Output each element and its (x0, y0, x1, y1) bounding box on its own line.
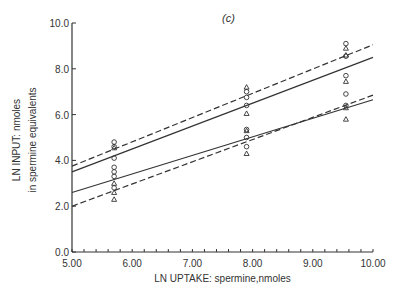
circle-data-point (112, 156, 117, 161)
circle-data-point (344, 92, 349, 97)
circle-data-point (112, 140, 117, 145)
triangle-data-point (112, 181, 117, 186)
triangle-data-point (244, 151, 249, 156)
x-tick-label: 9.00 (303, 258, 323, 269)
circle-data-point (112, 165, 117, 170)
triangle-data-point (343, 117, 348, 122)
triangle-data-point (343, 53, 348, 58)
triangle-data-point (343, 46, 348, 51)
y-axis-title-line2: in spermine equivalents (27, 87, 38, 192)
scatter-chart: 0.02.04.06.08.010.05.006.007.008.009.001… (0, 0, 403, 296)
y-tick-label: 4.0 (55, 155, 69, 166)
circle-data-point (244, 89, 249, 94)
circle-data-point (112, 170, 117, 175)
y-axis-title-line1: LN INPUT: nmoles (11, 99, 22, 181)
x-tick-label: 8.00 (243, 258, 263, 269)
x-tick-label: 6.00 (122, 258, 142, 269)
y-tick-label: 10.0 (50, 18, 70, 29)
triangle-data-point (112, 197, 117, 202)
upper-regression-solid-line (72, 57, 373, 172)
x-tick-label: 10.00 (360, 258, 385, 269)
circle-data-point (112, 174, 117, 179)
circle-data-point (344, 73, 349, 78)
y-tick-label: 0.0 (55, 247, 69, 258)
triangle-data-point (343, 79, 348, 84)
y-tick-label: 8.0 (55, 64, 69, 75)
upper-confidence-dashed-line (72, 45, 373, 166)
triangle-data-point (244, 85, 249, 90)
panel-label: (c) (222, 12, 235, 24)
x-tick-label: 7.00 (183, 258, 203, 269)
lower-regression-solid-line (72, 100, 373, 193)
x-axis-title: LN UPTAKE: spermine,nmoles (154, 273, 291, 284)
y-tick-label: 6.0 (55, 110, 69, 121)
y-tick-label: 2.0 (55, 201, 69, 212)
circle-data-point (244, 144, 249, 149)
lower-confidence-dashed-line (72, 95, 373, 206)
circle-data-point (244, 95, 249, 100)
x-tick-label: 5.00 (62, 258, 82, 269)
triangle-data-point (244, 111, 249, 116)
